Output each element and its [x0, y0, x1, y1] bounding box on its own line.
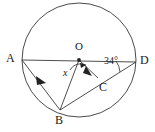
- geometry-figure-svg: [0, 0, 155, 132]
- segment-BD: [60, 62, 136, 110]
- center-label-O: O: [75, 41, 83, 52]
- circle-geometry-diagram: A B C D O x 34°: [0, 0, 155, 132]
- angle-label-x: x: [63, 68, 67, 78]
- segment-OC: [79, 60, 98, 78]
- direction-arrow-AB-icon: [36, 76, 46, 85]
- point-label-D: D: [140, 54, 149, 66]
- point-label-C: C: [99, 81, 107, 93]
- point-label-B: B: [55, 114, 63, 126]
- point-label-A: A: [6, 52, 15, 64]
- angle-label-34-degrees: 34°: [104, 56, 118, 66]
- center-point-dot: [77, 58, 81, 62]
